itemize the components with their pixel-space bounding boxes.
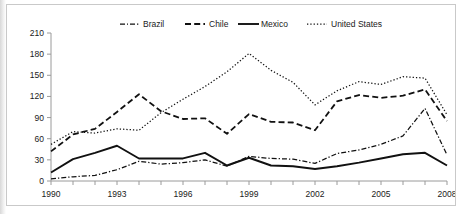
legend-item-united-states: United States — [307, 19, 382, 29]
y-tick-label: 30 — [35, 155, 45, 165]
y-tick-label: 180 — [30, 49, 44, 59]
x-tick-label: 2008 — [438, 189, 455, 199]
y-axis: 0306090120150180210 — [30, 28, 51, 186]
legend-item-chile: Chile — [185, 19, 229, 29]
series-line-mexico — [51, 146, 447, 173]
legend-label-mexico: Mexico — [261, 19, 288, 29]
y-tick-label: 120 — [30, 91, 44, 101]
x-tick-label: 2002 — [306, 189, 325, 199]
x-axis: 1990199319961999200220052008 — [42, 181, 455, 199]
x-tick-label: 1993 — [108, 189, 127, 199]
legend-label-chile: Chile — [209, 19, 229, 29]
chart-container: Brazil Chile Mexico United States 030609… — [6, 4, 456, 206]
y-tick-label: 90 — [35, 113, 45, 123]
y-tick-label: 0 — [39, 176, 44, 186]
line-chart: Brazil Chile Mexico United States 030609… — [7, 5, 455, 205]
x-tick-label: 2005 — [372, 189, 391, 199]
series-line-united-states — [51, 53, 447, 144]
legend-item-brazil: Brazil — [120, 19, 164, 29]
y-tick-label: 60 — [35, 134, 45, 144]
x-tick-label: 1990 — [42, 189, 61, 199]
series-line-chile — [51, 89, 447, 151]
legend-label-united-states: United States — [331, 19, 382, 29]
legend-label-brazil: Brazil — [143, 19, 164, 29]
y-tick-label: 150 — [30, 70, 44, 80]
y-tick-label: 210 — [30, 28, 44, 38]
series-line-brazil — [51, 108, 447, 178]
chart-legend: Brazil Chile Mexico United States — [120, 19, 382, 29]
x-tick-label: 1999 — [240, 189, 259, 199]
plot-area — [51, 53, 447, 178]
x-tick-label: 1996 — [174, 189, 193, 199]
legend-item-mexico: Mexico — [238, 19, 288, 29]
